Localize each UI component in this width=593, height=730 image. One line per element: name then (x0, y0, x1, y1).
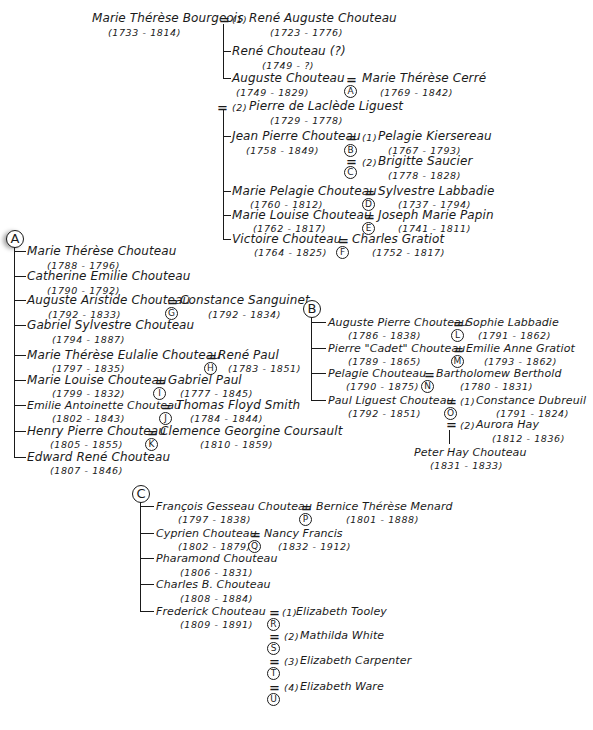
spouse-name: Bernice Thérèse Menard (316, 500, 453, 513)
person-dates: (1786 - 1838) (348, 331, 421, 341)
marriage-symbol: = (147, 426, 158, 439)
spouse-name: Pelagie Kiersereau (378, 130, 492, 143)
person-name: René Chouteau (?) (232, 45, 346, 58)
marriage-symbol: = (269, 681, 280, 694)
person-name: Edward René Chouteau (27, 451, 170, 464)
connector-line (311, 317, 312, 401)
person-dates: (1792 - 1851) (348, 409, 421, 419)
connector-line (140, 611, 154, 612)
marriage-symbol: = (424, 368, 435, 381)
spouse-dates: (1769 - 1842) (380, 88, 453, 98)
person-name: Auguste Chouteau (232, 72, 345, 85)
person-dates: (1802 - 1879) (178, 542, 251, 552)
marriage-symbol: = (269, 630, 280, 643)
person-dates: (1808 - 1884) (180, 594, 253, 604)
spouse-name: Marie Thérèse Cerré (362, 72, 486, 85)
connector-line (14, 355, 26, 356)
person-dates: (1807 - 1846) (50, 466, 123, 476)
marriage-symbol: = (364, 186, 375, 199)
person-name: Auguste Pierre Chouteau (328, 316, 468, 329)
person-dates: (1797 - 1838) (178, 515, 251, 525)
spouse-name: Nancy Francis (264, 527, 343, 540)
family-badge-c: C (344, 166, 357, 179)
person-name: Auguste Aristide Chouteau (27, 294, 190, 307)
spouse-dates: (1752 - 1817) (372, 248, 445, 258)
spouse-marker: (1) (362, 133, 377, 143)
connector-line (449, 430, 450, 444)
connector-line (311, 322, 326, 323)
person-name: Marie Pelagie Chouteau (232, 185, 377, 198)
person-name: Paul Liguest Chouteau (328, 394, 454, 407)
connector-line (14, 251, 26, 252)
family-badge-n: N (421, 380, 434, 393)
connector-line (223, 239, 231, 240)
spouse-dates: (1793 - 1862) (484, 357, 557, 367)
family-badge-l: L (451, 329, 464, 342)
connector-line (140, 506, 154, 507)
connector-line (14, 405, 26, 406)
person-dates: (1809 - 1891) (180, 620, 253, 630)
spouse-name: Elizabeth Ware (300, 680, 384, 693)
spouse-name: Brigitte Saucier (378, 155, 472, 168)
spouse-dates: (1792 - 1834) (208, 310, 281, 320)
marriage-symbol: = (269, 655, 280, 668)
person-dates: (1749 - ?) (262, 61, 314, 71)
connector-line (140, 502, 141, 612)
marriage-symbol: = (155, 375, 166, 388)
spouse-dates: (1812 - 1836) (492, 434, 565, 444)
person-name: Henry Pierre Chouteau (27, 425, 166, 438)
spouse-name: Charles Gratiot (352, 233, 444, 246)
connector-line (14, 325, 26, 326)
marriage-symbol: = (346, 73, 357, 86)
connector-line (140, 584, 154, 585)
spouse2-dates: (1729 - 1778) (270, 116, 343, 126)
spouse-name: Sophie Labbadie (466, 316, 559, 329)
spouse-name: René Paul (218, 349, 279, 362)
connector-line (311, 373, 326, 374)
person-name: Marie Louise Chouteau (27, 374, 167, 387)
spouse-marker: (1) (460, 397, 475, 407)
spouse-name: Gabriel Paul (168, 374, 242, 387)
spouse-dates: (1832 - 1912) (278, 542, 351, 552)
spouse1-name: René Auguste Chouteau (249, 12, 397, 25)
genealogy-chart: Marie Thérèse Bourgeois (1733 - 1814) = … (0, 0, 593, 730)
marriage-symbol: = (269, 606, 280, 619)
connector-line (311, 348, 326, 349)
person-name: François Gesseau Chouteau (156, 500, 312, 513)
person-dates: (1831 - 1833) (430, 461, 503, 471)
spouse-name: Emilie Anne Gratiot (466, 342, 575, 355)
marriage-symbol: = (453, 343, 464, 356)
person-dates: (1749 - 1829) (236, 88, 309, 98)
spouse-name: Aurora Hay (476, 418, 539, 431)
spouse1-dates: (1723 - 1776) (270, 28, 343, 38)
marriage-symbol: = (206, 350, 217, 363)
spouse-dates: (1801 - 1888) (346, 515, 419, 525)
person-name: Gabriel Sylvestre Chouteau (27, 319, 194, 332)
family-badge-b-header: B (303, 300, 321, 318)
spouse-name: Constance Dubreuil (476, 394, 586, 407)
person-dates: (1790 - 1875) (346, 382, 419, 392)
connector-line (223, 191, 231, 192)
spouse-marker: (1) (282, 608, 297, 618)
spouse-name: Joseph Marie Papin (378, 209, 494, 222)
marriage-symbol: = (219, 13, 230, 26)
spouse-name: Thomas Floyd Smith (176, 399, 300, 412)
spouse-dates: (1784 - 1844) (190, 414, 263, 424)
connector-line (140, 533, 154, 534)
root-dates: (1733 - 1814) (108, 28, 181, 38)
person-dates: (1806 - 1831) (180, 568, 253, 578)
marriage-symbol: = (301, 501, 312, 514)
spouse-name: Clemence Georgine Coursault (160, 425, 343, 438)
family-badge-a: A (344, 85, 357, 98)
person-dates: (1758 - 1849) (246, 146, 319, 156)
marriage-symbol: = (446, 395, 457, 408)
spouse-dates: (1810 - 1859) (200, 440, 273, 450)
person-name: Pierre "Cadet" Chouteau (328, 342, 465, 355)
spouse-marker: (2) (460, 421, 475, 431)
connector-line (223, 136, 231, 137)
family-badge-c-header: C (132, 485, 150, 503)
connector-line (14, 431, 26, 432)
person-dates: (1799 - 1832) (52, 389, 125, 399)
family-badge-a-header: A (6, 230, 24, 248)
connector-line (14, 276, 26, 277)
